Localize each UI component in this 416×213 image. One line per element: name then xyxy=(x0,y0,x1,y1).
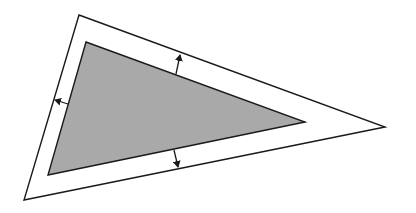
offset-diagram xyxy=(0,0,416,213)
